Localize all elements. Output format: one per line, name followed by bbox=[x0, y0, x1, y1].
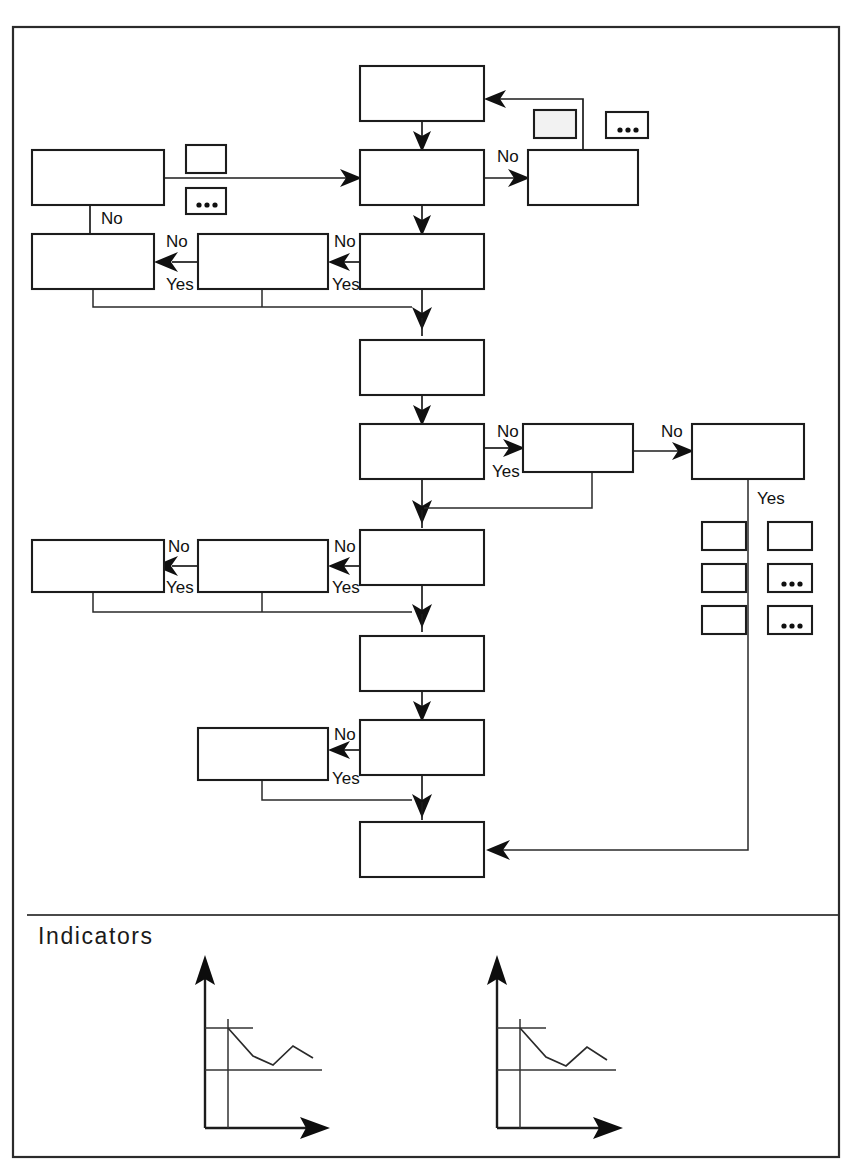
edge-label-no-lower-right: No bbox=[334, 537, 356, 556]
edge-label-yes-lower-right: Yes bbox=[332, 578, 360, 597]
ellipsis-icon-right-col-2 bbox=[781, 581, 802, 586]
indicator-chart-right bbox=[487, 955, 623, 1139]
top-process-box[interactable] bbox=[360, 66, 484, 121]
indicators-title: Indicators bbox=[38, 923, 154, 949]
connector-l2-yes-return bbox=[93, 289, 412, 307]
decision-box-4[interactable] bbox=[360, 424, 484, 479]
edge-label-yes-upper-right: Yes bbox=[332, 275, 360, 294]
annotation-box-blank-top-left[interactable] bbox=[186, 145, 226, 173]
decision-box-2[interactable] bbox=[360, 234, 484, 289]
edge-label-yes-upper-mid: Yes bbox=[166, 275, 194, 294]
edge-label-no-top-right: No bbox=[497, 147, 519, 166]
left-branch-box-lower-mid[interactable] bbox=[198, 540, 328, 592]
edge-label-no-upper-mid: No bbox=[166, 232, 188, 251]
left-branch-box-bottom[interactable] bbox=[198, 728, 328, 780]
edge-label-no-mid-1: No bbox=[497, 422, 519, 441]
left-branch-box-upper-mid[interactable] bbox=[198, 234, 328, 289]
diagram-page: No No No Yes No Yes No Yes No Yes No Yes… bbox=[0, 0, 853, 1172]
decision-box-5[interactable] bbox=[360, 530, 484, 585]
process-box-3[interactable] bbox=[360, 340, 484, 395]
flowchart-canvas: No No No Yes No Yes No Yes No Yes No Yes… bbox=[0, 0, 853, 1172]
annotation-box-left-col-3[interactable] bbox=[702, 606, 746, 634]
right-branch-box-top[interactable] bbox=[528, 150, 638, 205]
decision-box-7[interactable] bbox=[360, 720, 484, 775]
process-box-6[interactable] bbox=[360, 636, 484, 691]
end-process-box[interactable] bbox=[360, 822, 484, 877]
edge-label-no-lower-mid: No bbox=[168, 537, 190, 556]
right-branch-box-far[interactable] bbox=[692, 424, 804, 479]
series-line-right-chart bbox=[520, 1028, 607, 1066]
annotation-box-shaded-top-right[interactable] bbox=[534, 110, 576, 138]
annotation-box-right-col-3[interactable] bbox=[768, 606, 812, 634]
left-branch-box-upper[interactable] bbox=[32, 234, 154, 289]
edge-label-no-upper-right: No bbox=[334, 232, 356, 251]
ellipsis-icon-top-right bbox=[617, 127, 638, 132]
left-branch-box-lower[interactable] bbox=[32, 540, 164, 592]
indicators-panel: Indicators bbox=[38, 923, 623, 1139]
edge-label-no-bottom: No bbox=[334, 725, 356, 744]
node-group bbox=[32, 66, 804, 877]
left-entry-box[interactable] bbox=[32, 150, 164, 205]
edge-label-yes-lower-mid: Yes bbox=[166, 578, 194, 597]
annotation-box-ellipsis-top-right[interactable] bbox=[606, 112, 648, 138]
annotation-box-left-col-2[interactable] bbox=[702, 564, 746, 592]
edge-label-no-left-entry: No bbox=[101, 209, 123, 228]
right-branch-box-mid[interactable] bbox=[523, 424, 633, 472]
edge-label-yes-mid-1: Yes bbox=[492, 462, 520, 481]
edge-label-yes-far-right: Yes bbox=[757, 489, 785, 508]
annotation-box-right-col-1[interactable] bbox=[768, 522, 812, 550]
annotation-box-right-col-2[interactable] bbox=[768, 564, 812, 592]
indicator-chart-left bbox=[195, 955, 330, 1139]
annotation-box-left-col-1[interactable] bbox=[702, 522, 746, 550]
decision-box-1[interactable] bbox=[360, 150, 484, 205]
edge-label-yes-bottom: Yes bbox=[332, 769, 360, 788]
annotation-box-ellipsis-top-left[interactable] bbox=[186, 188, 226, 214]
connector-l4-yes-return bbox=[93, 592, 412, 612]
edge-label-no-mid-2: No bbox=[661, 422, 683, 441]
ellipsis-icon-top-left bbox=[196, 202, 217, 207]
series-line-left-chart bbox=[228, 1028, 313, 1065]
ellipsis-icon-right-col-3 bbox=[781, 623, 802, 628]
